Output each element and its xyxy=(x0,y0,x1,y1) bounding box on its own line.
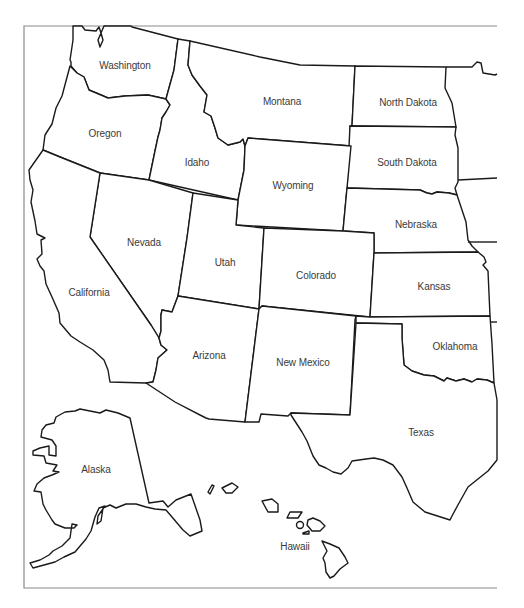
hawaii-molokai[interactable] xyxy=(297,522,304,529)
label-oklahoma: Oklahoma xyxy=(433,341,478,352)
label-washington: Washington xyxy=(99,60,150,71)
hawaii-big-island[interactable] xyxy=(322,541,348,578)
label-oregon: Oregon xyxy=(89,128,122,139)
island-alaska-1 xyxy=(208,485,214,494)
border-iowa-north xyxy=(458,178,497,180)
label-montana: Montana xyxy=(263,96,301,107)
label-north-dakota: North Dakota xyxy=(379,97,437,108)
label-alaska: Alaska xyxy=(81,464,110,475)
label-idaho: Idaho xyxy=(185,157,210,168)
label-california: California xyxy=(68,287,109,298)
label-south-dakota: South Dakota xyxy=(377,157,436,168)
hawaii-kahoolawe[interactable] xyxy=(303,531,309,534)
label-colorado: Colorado xyxy=(296,270,336,281)
label-nevada: Nevada xyxy=(127,237,161,248)
label-nebraska: Nebraska xyxy=(395,219,437,230)
label-hawaii: Hawaii xyxy=(280,541,309,552)
label-arizona: Arizona xyxy=(192,350,225,361)
label-wyoming: Wyoming xyxy=(273,180,314,191)
hawaii-oahu[interactable] xyxy=(287,512,302,518)
label-new-mexico: New Mexico xyxy=(276,357,329,368)
island-alaska-2 xyxy=(222,483,238,493)
border-minnesota xyxy=(446,62,497,75)
label-texas: Texas xyxy=(408,427,434,438)
hawaii-kauai[interactable] xyxy=(262,499,278,512)
map-canvas xyxy=(0,0,524,608)
state-alaska[interactable] xyxy=(30,409,202,568)
hawaii-maui[interactable] xyxy=(307,518,325,531)
label-kansas: Kansas xyxy=(418,281,451,292)
label-utah: Utah xyxy=(215,257,236,268)
